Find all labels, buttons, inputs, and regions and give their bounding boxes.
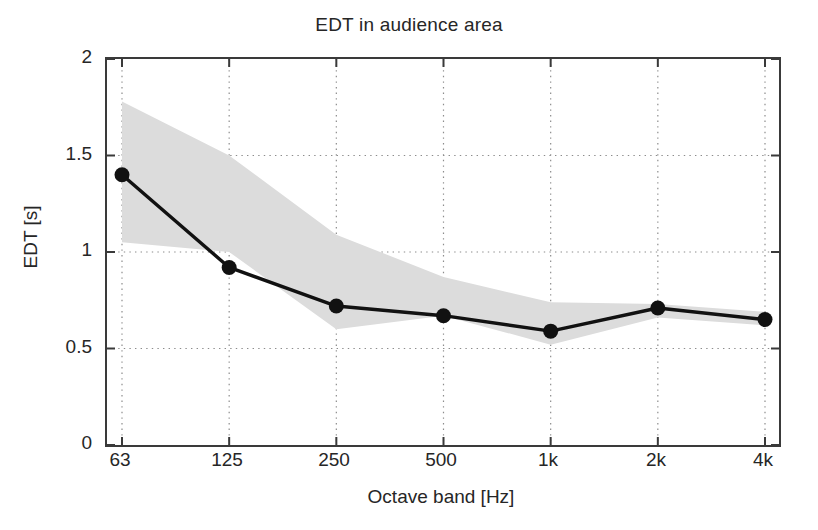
x-tick-label-1k: 1k [513,449,583,471]
x-tick-label-4k: 4k [728,449,798,471]
x-tick-label-250: 250 [299,449,369,471]
y-tick-label-1: 1 [40,239,92,261]
chart-page: EDT in audience area 2 1.5 1 0.5 0 63 12… [0,0,818,530]
x-tick-label-2k: 2k [621,449,691,471]
data-point-2k [650,300,665,315]
y-tick-label-2: 2 [40,46,92,68]
chart-canvas [107,59,779,445]
y-tick-label-1-5: 1.5 [40,143,92,165]
data-point-250 [329,299,344,314]
y-axis-title: EDT [s] [20,157,42,317]
x-tick-label-125: 125 [192,449,262,471]
chart-title: EDT in audience area [0,14,818,36]
gridlines [107,59,779,445]
x-tick-label-500: 500 [406,449,476,471]
x-axis-title: Octave band [Hz] [105,486,777,508]
data-point-4k [758,312,773,327]
data-point-1k [543,324,558,339]
data-point-63 [115,167,130,182]
x-tick-label-63: 63 [85,449,155,471]
plot-area [105,57,781,447]
y-tick-label-0-5: 0.5 [40,336,92,358]
data-point-125 [222,260,237,275]
data-point-500 [436,308,451,323]
